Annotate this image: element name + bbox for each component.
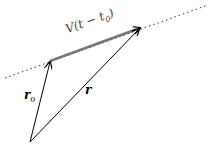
r-label: r xyxy=(85,84,91,96)
r0-label-subscript: 0 xyxy=(30,95,35,104)
r0-label: r0 xyxy=(24,89,35,104)
